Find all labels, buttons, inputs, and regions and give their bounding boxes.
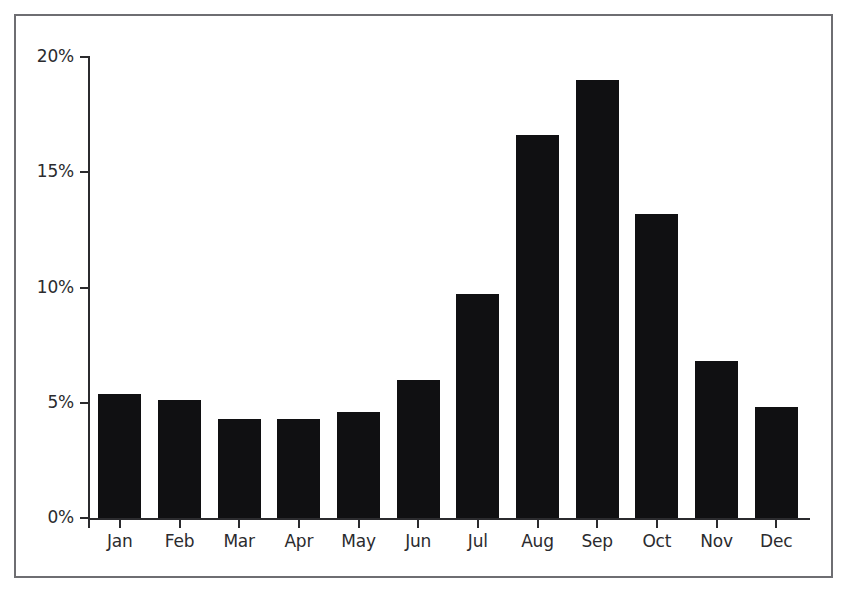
bar-sep <box>576 80 619 518</box>
bar-jan <box>98 394 141 518</box>
bar-nov <box>695 361 738 518</box>
x-axis-tick-label: Feb <box>150 531 210 551</box>
bar-aug <box>516 135 559 518</box>
x-axis-tick <box>298 519 300 528</box>
bar-oct <box>635 214 678 518</box>
x-axis-tick-label: Apr <box>269 531 329 551</box>
x-axis-tick-label: Oct <box>627 531 687 551</box>
x-axis-tick <box>716 519 718 528</box>
bar-dec <box>755 407 798 518</box>
bar-jul <box>456 294 499 518</box>
x-axis-tick-label: Jul <box>448 531 508 551</box>
bars-group <box>0 0 850 520</box>
chart-screenshot: 0%5%10%15%20% JanFebMarAprMayJunJulAugSe… <box>0 0 850 594</box>
x-axis-origin-tick <box>88 519 90 528</box>
x-axis-tick <box>179 519 181 528</box>
x-axis-tick-label: Jun <box>388 531 448 551</box>
x-axis-tick-label: Mar <box>209 531 269 551</box>
x-axis-tick <box>596 519 598 528</box>
bar-may <box>337 412 380 518</box>
x-axis-tick <box>238 519 240 528</box>
x-axis-tick-label: Sep <box>567 531 627 551</box>
x-axis-tick <box>775 519 777 528</box>
x-axis-tick <box>537 519 539 528</box>
x-axis-tick <box>119 519 121 528</box>
bar-mar <box>218 419 261 518</box>
x-axis-tick <box>417 519 419 528</box>
x-axis-tick-label: Nov <box>687 531 747 551</box>
x-axis-tick <box>358 519 360 528</box>
x-axis-tick <box>656 519 658 528</box>
x-axis-tick-label: Aug <box>508 531 568 551</box>
x-axis-tick <box>477 519 479 528</box>
bar-jun <box>397 380 440 518</box>
bar-apr <box>277 419 320 518</box>
x-axis-tick-label: May <box>329 531 389 551</box>
x-axis-tick-label: Jan <box>90 531 150 551</box>
bar-feb <box>158 400 201 518</box>
x-axis-tick-label: Dec <box>746 531 806 551</box>
